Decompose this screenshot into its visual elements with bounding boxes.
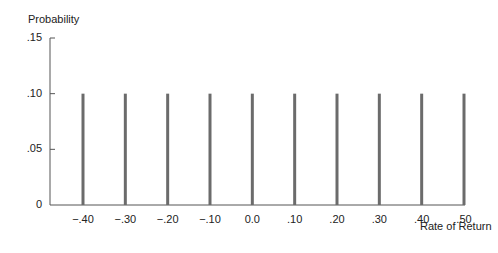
x-tick-label: .40	[402, 213, 442, 225]
x-tick-label: .50	[444, 213, 484, 225]
x-tick-label: 0.0	[232, 213, 272, 225]
x-tick-label: .10	[275, 213, 315, 225]
y-tick-label: .05	[2, 142, 42, 154]
y-tick-label: 0	[2, 198, 42, 210]
x-tick-label: −.20	[148, 213, 188, 225]
y-axis-title: Probability	[28, 13, 79, 25]
x-tick-label: −.30	[105, 213, 145, 225]
probability-distribution-chart: Probability Rate of Return 0.05.10.15 −.…	[0, 0, 498, 253]
x-tick-label: .30	[359, 213, 399, 225]
x-tick-label: −.40	[63, 213, 103, 225]
x-tick-label: .20	[317, 213, 357, 225]
y-tick-label: .15	[2, 31, 42, 43]
y-tick-label: .10	[2, 87, 42, 99]
x-tick-label: −.10	[190, 213, 230, 225]
